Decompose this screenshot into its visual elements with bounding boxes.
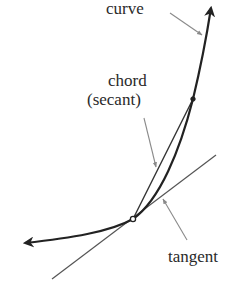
diagram-canvas	[0, 0, 246, 288]
chord-line	[133, 99, 193, 219]
chord-pointer-arrow	[144, 118, 156, 167]
secant-point	[191, 97, 195, 101]
tangent-label: tangent	[168, 248, 218, 266]
secant-label: (secant)	[87, 91, 141, 109]
curve-label: curve	[106, 0, 144, 18]
curve-pointer-arrow	[170, 13, 202, 35]
curve-path	[25, 8, 211, 243]
tangent-pointer-arrow	[163, 199, 187, 240]
chord-label: chord	[108, 72, 147, 90]
tangency-point	[130, 216, 135, 221]
